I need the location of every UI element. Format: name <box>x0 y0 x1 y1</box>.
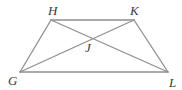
segments-group <box>20 20 168 72</box>
geometry-canvas: HKGLJ <box>0 0 182 90</box>
segment-gk <box>20 20 134 72</box>
vertex-label-h: H <box>47 3 58 18</box>
geometry-figure: HKGLJ <box>0 0 182 90</box>
vertex-label-k: K <box>129 3 140 18</box>
vertex-label-l: L <box>168 75 176 90</box>
segment-gh <box>20 20 51 72</box>
vertex-label-g: G <box>8 73 18 88</box>
vertex-label-j: J <box>85 40 92 55</box>
